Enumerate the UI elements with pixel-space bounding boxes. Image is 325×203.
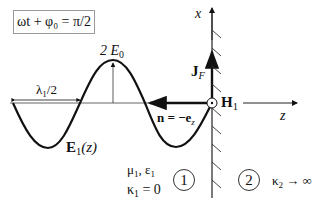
surface-current-label: JF (191, 64, 205, 82)
medium1-parameters: μ1, ε1 (127, 163, 155, 179)
z-axis-label: z (280, 109, 285, 123)
normal-vector-label: n = −ez (157, 111, 195, 127)
wall-hatching (212, 30, 221, 188)
medium1-conductivity: κ1 = 0 (127, 183, 161, 199)
region-2-marker: 2 (238, 169, 260, 191)
region-1-marker: 1 (173, 169, 195, 191)
field-curve-label: E1(z) (66, 140, 97, 158)
half-wavelength-label: λ1/2 (36, 83, 57, 99)
magnetic-field-label: H1 (221, 95, 238, 113)
x-axis-label: x (195, 7, 201, 21)
phase-condition-box: ωt + φ₀ = π/2 (13, 10, 95, 34)
medium2-conductivity: κ2 → ∞ (272, 174, 312, 190)
amplitude-label: 2 E0 (100, 44, 124, 60)
